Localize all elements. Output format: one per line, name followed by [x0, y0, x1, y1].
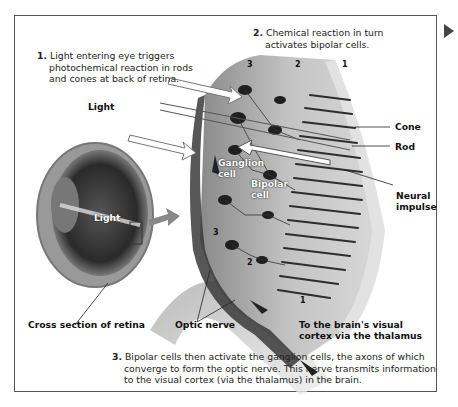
ganglion-cell-label: Ganglion cell [218, 157, 264, 179]
cross-section-label: Cross section of retina [28, 319, 145, 330]
layer-number-1: 1 [342, 60, 348, 69]
bipolar-cell-label: Bipolar cell [251, 178, 288, 200]
step-3-text: 3. Bipolar cells then activate the gangl… [112, 351, 436, 386]
layer-number-3: 3 [247, 60, 253, 69]
layer-number-2-side: 2 [247, 258, 253, 267]
optic-nerve-label: Optic nerve [175, 319, 235, 330]
rod-label: Rod [395, 141, 415, 152]
step-2-text: 2. Chemical reaction in turn activates b… [253, 27, 384, 50]
light-label-eye: Light [94, 212, 121, 223]
neural-impulse-label: Neural impulse [396, 190, 437, 212]
cone-label: Cone [395, 121, 421, 132]
layer-number-2: 2 [295, 60, 301, 69]
step-1-text: 1. Light entering eye triggers photochem… [37, 50, 193, 85]
brain-destination-label: To the brain's visual cortex via the tha… [299, 319, 422, 341]
layer-number-3-side: 3 [213, 228, 219, 237]
layer-number-1-side: 1 [300, 296, 306, 305]
light-label-top: Light [88, 101, 115, 112]
